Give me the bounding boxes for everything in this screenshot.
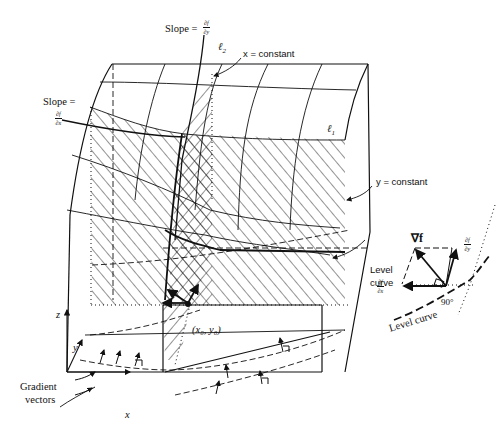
diagram-canvas: Slope = ∂f ∂y ℓ2 x = constant Slope = ∂f…: [0, 0, 498, 430]
l1-label: ℓ1: [327, 124, 335, 137]
inset-dfdx-fraction: ∂f ∂x: [377, 279, 384, 294]
slope-y-label: Slope =: [165, 24, 197, 35]
slope-y-fraction: ∂f ∂y: [203, 20, 210, 35]
x-constant-label: x = constant: [243, 49, 295, 59]
gradient-vectors-label-2: vectors: [25, 395, 55, 406]
point-x0-y0-label: (x₀, y₀): [192, 325, 221, 336]
axes: [67, 310, 130, 372]
l2-label: ℓ2: [218, 42, 226, 55]
right-angle-label: 90°: [441, 298, 454, 307]
axis-y-label: y: [73, 343, 78, 354]
gradient-vectors-label-1: Gradient: [20, 382, 57, 393]
slope-x-fraction: ∂f ∂x: [55, 111, 62, 126]
surface-diagram-graphic: [0, 0, 498, 430]
gradient-f-label: ∇f: [411, 232, 423, 244]
level-curve-label-main-1: Level: [370, 265, 393, 275]
slope-x-label: Slope =: [43, 97, 75, 108]
inset-dfdy-fraction: ∂f ∂y: [464, 237, 471, 252]
y-constant-label: y = constant: [376, 177, 428, 187]
axis-x-label: x: [125, 410, 130, 421]
axis-z-label: z: [56, 310, 60, 321]
